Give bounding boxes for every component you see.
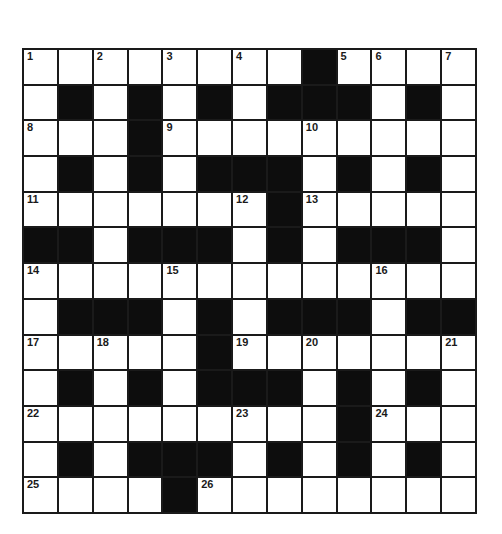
grid-cell[interactable]: [233, 264, 266, 298]
grid-cell[interactable]: [163, 157, 196, 191]
grid-cell[interactable]: [268, 336, 301, 370]
grid-cell[interactable]: [372, 371, 405, 405]
grid-cell[interactable]: [303, 157, 336, 191]
grid-cell[interactable]: [407, 121, 440, 155]
grid-cell[interactable]: [303, 407, 336, 441]
grid-cell[interactable]: [338, 478, 371, 512]
grid-cell[interactable]: [372, 336, 405, 370]
grid-cell[interactable]: [233, 121, 266, 155]
grid-cell[interactable]: [59, 407, 92, 441]
grid-cell[interactable]: [338, 336, 371, 370]
grid-cell[interactable]: 5: [338, 50, 371, 84]
grid-cell[interactable]: [24, 300, 57, 334]
grid-cell[interactable]: [59, 50, 92, 84]
grid-cell[interactable]: [407, 50, 440, 84]
grid-cell[interactable]: [24, 86, 57, 120]
grid-cell[interactable]: [59, 336, 92, 370]
grid-cell[interactable]: [198, 407, 231, 441]
grid-cell[interactable]: 20: [303, 336, 336, 370]
grid-cell[interactable]: [407, 264, 440, 298]
grid-cell[interactable]: [163, 371, 196, 405]
grid-cell[interactable]: [59, 478, 92, 512]
grid-cell[interactable]: [59, 264, 92, 298]
grid-cell[interactable]: [129, 478, 162, 512]
grid-cell[interactable]: [407, 478, 440, 512]
grid-cell[interactable]: [407, 407, 440, 441]
grid-cell[interactable]: [303, 264, 336, 298]
grid-cell[interactable]: [268, 264, 301, 298]
grid-cell[interactable]: 10: [303, 121, 336, 155]
grid-cell[interactable]: [233, 443, 266, 477]
grid-cell[interactable]: [442, 443, 475, 477]
grid-cell[interactable]: 15: [163, 264, 196, 298]
grid-cell[interactable]: 7: [442, 50, 475, 84]
grid-cell[interactable]: [407, 193, 440, 227]
grid-cell[interactable]: [442, 228, 475, 262]
grid-cell[interactable]: [372, 86, 405, 120]
grid-cell[interactable]: [94, 193, 127, 227]
grid-cell[interactable]: 2: [94, 50, 127, 84]
grid-cell[interactable]: [198, 264, 231, 298]
grid-cell[interactable]: [129, 50, 162, 84]
grid-cell[interactable]: [163, 407, 196, 441]
grid-cell[interactable]: 23: [233, 407, 266, 441]
grid-cell[interactable]: 14: [24, 264, 57, 298]
grid-cell[interactable]: [303, 371, 336, 405]
grid-cell[interactable]: 8: [24, 121, 57, 155]
grid-cell[interactable]: [94, 264, 127, 298]
grid-cell[interactable]: [233, 300, 266, 334]
grid-cell[interactable]: [268, 478, 301, 512]
grid-cell[interactable]: 25: [24, 478, 57, 512]
grid-cell[interactable]: 24: [372, 407, 405, 441]
grid-cell[interactable]: [407, 336, 440, 370]
grid-cell[interactable]: [233, 478, 266, 512]
grid-cell[interactable]: [442, 478, 475, 512]
grid-cell[interactable]: [129, 336, 162, 370]
grid-cell[interactable]: [163, 336, 196, 370]
grid-cell[interactable]: 18: [94, 336, 127, 370]
grid-cell[interactable]: [372, 443, 405, 477]
grid-cell[interactable]: [94, 157, 127, 191]
grid-cell[interactable]: [372, 300, 405, 334]
grid-cell[interactable]: [129, 264, 162, 298]
grid-cell[interactable]: [442, 264, 475, 298]
grid-cell[interactable]: [268, 50, 301, 84]
grid-cell[interactable]: 13: [303, 193, 336, 227]
grid-cell[interactable]: [94, 371, 127, 405]
grid-cell[interactable]: [24, 157, 57, 191]
grid-cell[interactable]: [372, 157, 405, 191]
grid-cell[interactable]: [303, 478, 336, 512]
grid-cell[interactable]: [442, 86, 475, 120]
grid-cell[interactable]: 26: [198, 478, 231, 512]
grid-cell[interactable]: 4: [233, 50, 266, 84]
grid-cell[interactable]: [94, 478, 127, 512]
grid-cell[interactable]: [198, 193, 231, 227]
grid-cell[interactable]: 22: [24, 407, 57, 441]
grid-cell[interactable]: [268, 121, 301, 155]
grid-cell[interactable]: [372, 478, 405, 512]
grid-cell[interactable]: [442, 371, 475, 405]
grid-cell[interactable]: [163, 86, 196, 120]
grid-cell[interactable]: 1: [24, 50, 57, 84]
grid-cell[interactable]: [233, 228, 266, 262]
grid-cell[interactable]: [59, 121, 92, 155]
grid-cell[interactable]: [94, 228, 127, 262]
grid-cell[interactable]: 16: [372, 264, 405, 298]
grid-cell[interactable]: [338, 193, 371, 227]
grid-cell[interactable]: [24, 371, 57, 405]
grid-cell[interactable]: [163, 300, 196, 334]
grid-cell[interactable]: [59, 193, 92, 227]
grid-cell[interactable]: [233, 86, 266, 120]
grid-cell[interactable]: [198, 50, 231, 84]
grid-cell[interactable]: [442, 121, 475, 155]
grid-cell[interactable]: [372, 193, 405, 227]
grid-cell[interactable]: [303, 228, 336, 262]
grid-cell[interactable]: [198, 121, 231, 155]
grid-cell[interactable]: [129, 407, 162, 441]
grid-cell[interactable]: 9: [163, 121, 196, 155]
grid-cell[interactable]: [94, 86, 127, 120]
grid-cell[interactable]: 6: [372, 50, 405, 84]
grid-cell[interactable]: 19: [233, 336, 266, 370]
grid-cell[interactable]: 11: [24, 193, 57, 227]
grid-cell[interactable]: [303, 443, 336, 477]
